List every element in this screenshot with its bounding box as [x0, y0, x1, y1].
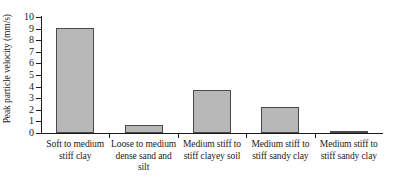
y-axis-tick-label: 6	[4, 58, 34, 68]
x-axis-category-label: Medium stiff to stiff sandy clay	[246, 139, 314, 162]
y-axis-tick	[36, 52, 41, 53]
y-axis-tick-label: 10	[4, 12, 34, 22]
bar	[330, 131, 368, 133]
y-axis-tick	[36, 110, 41, 111]
x-axis-category-label: Loose to medium dense sand and silt	[109, 139, 177, 174]
x-axis-tick	[178, 134, 179, 138]
y-axis-tick	[36, 98, 41, 99]
y-axis-tick	[36, 133, 41, 134]
y-axis-tick-label: 0	[4, 128, 34, 138]
x-axis-category-label: Medium stiff to stiff sandy clay	[315, 139, 383, 162]
bar	[193, 90, 231, 134]
y-axis-tick	[36, 40, 41, 41]
y-axis-tick-label: 7	[4, 47, 34, 57]
bar	[125, 125, 163, 133]
y-axis-tick	[36, 87, 41, 88]
y-axis-tick-label: 9	[4, 24, 34, 34]
y-axis-tick	[36, 29, 41, 30]
y-axis-tick	[36, 17, 41, 18]
bar	[56, 28, 94, 133]
bar	[261, 107, 299, 133]
x-axis-category-label: Soft to medium stiff clay	[41, 139, 109, 162]
y-axis-tick-label: 5	[4, 70, 34, 80]
y-axis-tick	[36, 63, 41, 64]
y-axis-tick-label: 1	[4, 116, 34, 126]
x-axis-category-labels: Soft to medium stiff clayLoose to medium…	[41, 139, 383, 189]
y-axis-tick	[36, 75, 41, 76]
x-axis-tick	[315, 134, 316, 138]
y-axis-tick-label: 4	[4, 82, 34, 92]
y-axis-tick-label: 3	[4, 93, 34, 103]
x-axis-tick	[246, 134, 247, 138]
x-axis-line	[41, 133, 383, 134]
x-axis-category-label: Medium stiff to stiff clayey soil	[178, 139, 246, 162]
bar-chart: Peak particle velocity (mm/s) 1098765432…	[0, 0, 395, 189]
y-axis-tick-label: 8	[4, 35, 34, 45]
plot-area	[41, 17, 383, 133]
x-axis-tick	[109, 134, 110, 138]
y-axis-tick-labels: 109876543210	[0, 0, 34, 189]
y-axis-tick-label: 2	[4, 105, 34, 115]
y-axis-tick	[36, 121, 41, 122]
